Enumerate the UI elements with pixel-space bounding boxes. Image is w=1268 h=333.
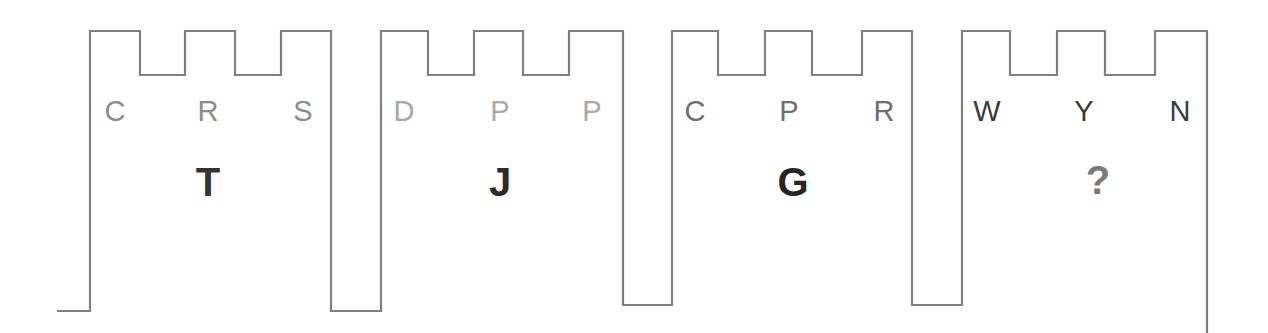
group-4-small-label-0: W xyxy=(973,97,1000,126)
group-4-small-label-1: Y xyxy=(1074,97,1093,126)
group-2-small-label-2: P xyxy=(582,97,601,126)
group-1-big-label: T xyxy=(196,162,220,202)
group-1-small-label-1: R xyxy=(198,97,219,126)
group-3-big-label: G xyxy=(777,162,808,202)
label-layer: C R S T D P P J C P R G W Y N ? xyxy=(0,0,1268,333)
group-1-small-label-2: S xyxy=(293,97,312,126)
group-3-small-label-0: C xyxy=(685,97,706,126)
group-2-big-label: J xyxy=(489,162,511,202)
group-4-big-label: ? xyxy=(1086,160,1110,200)
group-2-small-label-1: P xyxy=(490,97,509,126)
group-3-small-label-2: R xyxy=(874,97,895,126)
diagram-canvas: C R S T D P P J C P R G W Y N ? xyxy=(0,0,1268,333)
group-3-small-label-1: P xyxy=(779,97,798,126)
group-1-small-label-0: C xyxy=(105,97,126,126)
group-4-small-label-2: N xyxy=(1170,97,1191,126)
group-2-small-label-0: D xyxy=(394,97,415,126)
